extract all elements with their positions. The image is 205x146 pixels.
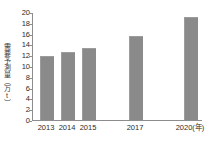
bar-2015 (82, 48, 96, 120)
x-axis-tick-label: 2020(年) (176, 123, 205, 132)
y-axis-title: 需要予測量（万t） (0, 26, 13, 122)
x-axis-tick-label: 2017 (127, 123, 144, 132)
bar-2020 (184, 17, 198, 120)
x-axis-tick-label: 2014 (59, 123, 76, 132)
bar-2017 (129, 36, 143, 120)
bar-2013 (40, 56, 54, 120)
plot-area (32, 13, 202, 121)
bar-2014 (61, 52, 75, 120)
x-axis-tick-label: 2015 (80, 123, 97, 132)
y-axis-tick-mark (29, 121, 32, 122)
x-axis-tick-labels: 20132014201520172020(年) (32, 123, 205, 137)
bar-chart: 需要予測量（万t） 20181614121086420 201320142015… (0, 0, 205, 146)
x-axis-tick-label: 2013 (38, 123, 55, 132)
bars-layer (32, 13, 202, 121)
